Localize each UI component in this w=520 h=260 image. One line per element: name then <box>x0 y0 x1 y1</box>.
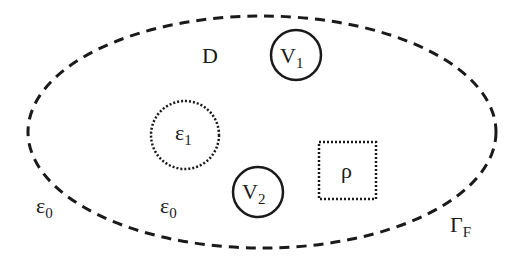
domain-boundary <box>28 16 496 248</box>
electrode-1-label: V1 <box>280 43 303 71</box>
domain-label: D <box>202 43 218 68</box>
diagram-canvas: D V1 ε1 V2 ρ ε0 ε0 ΓF <box>0 0 520 260</box>
electrode-2-label: V2 <box>242 179 265 207</box>
charge-density-label: ρ <box>341 158 352 183</box>
boundary-label: ΓF <box>450 212 471 240</box>
outer-permittivity-label: ε0 <box>36 193 53 221</box>
dielectric-label: ε1 <box>175 120 192 148</box>
inner-permittivity-label: ε0 <box>160 193 177 221</box>
